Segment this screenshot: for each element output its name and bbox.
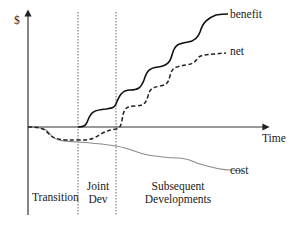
cost-label: cost xyxy=(230,164,249,177)
x-axis-label: Time xyxy=(262,132,286,145)
phase-transition-label: Transition xyxy=(32,191,79,204)
phase-joint-dev-line2: Dev xyxy=(82,193,114,206)
net-label: net xyxy=(230,45,244,58)
phase-joint-dev-label: Joint Dev xyxy=(82,180,114,206)
phase-subsequent-label: Subsequent Developments xyxy=(133,180,223,206)
cost-curve xyxy=(28,127,243,171)
y-axis-label: $ xyxy=(14,14,20,27)
phase-subsequent-line1: Subsequent xyxy=(133,180,223,193)
phase-joint-dev-line1: Joint xyxy=(82,180,114,193)
phase-subsequent-line2: Developments xyxy=(133,193,223,206)
benefit-label: benefit xyxy=(230,8,262,21)
benefit-curve xyxy=(78,14,228,127)
